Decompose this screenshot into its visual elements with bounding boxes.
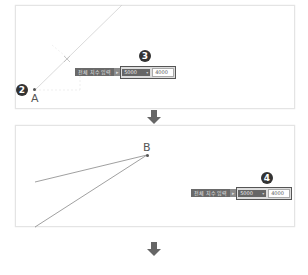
length-dropdown-value: 5000 <box>240 190 253 197</box>
step2-lines <box>0 0 308 275</box>
point-b-label: B <box>143 141 151 154</box>
step-badge-4: 4 <box>261 172 273 184</box>
dimension-input-group: 5000 ▾ 4000 <box>236 187 292 200</box>
point-b-marker <box>146 154 149 157</box>
arrow-down-icon <box>147 242 161 256</box>
step2-dimension-toolbar: 전체 치수 입력 ▸ 5000 ▾ 4000 <box>191 188 292 198</box>
length-dropdown[interactable]: 5000 ▾ <box>238 190 266 197</box>
dimension-input-label: 전체 치수 입력 <box>191 189 230 197</box>
width-input[interactable]: 4000 <box>268 189 290 198</box>
chevron-down-icon[interactable]: ▾ <box>262 190 266 197</box>
